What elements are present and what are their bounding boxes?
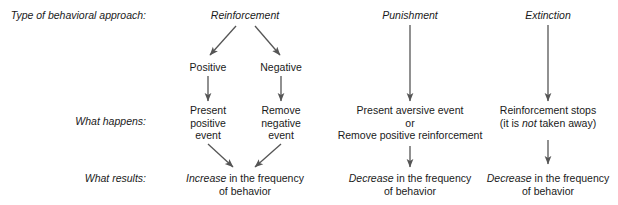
results-punishment-rest: in the frequency: [394, 172, 472, 184]
results-extinction-line2: of behavior: [487, 185, 610, 198]
happens-negative-line3: event: [261, 129, 301, 142]
happens-negative-line2: negative: [261, 117, 301, 130]
row-label-approach: Type of behavioral approach:: [11, 9, 146, 22]
column-header-reinforcement: Reinforcement: [211, 9, 279, 22]
results-punishment-line1: Decrease in the frequency: [349, 172, 472, 185]
results-extinction-emphasis: Decrease: [487, 172, 532, 184]
results-reinforcement-rest: in the frequency: [226, 172, 304, 184]
results-extinction-line1: Decrease in the frequency: [487, 172, 610, 185]
happens-extinction-line2-post: taken away): [537, 117, 597, 129]
happens-positive-line3: event: [190, 129, 226, 142]
happens-punishment-line3: Remove positive reinforcement: [338, 129, 483, 142]
results-punishment-line2: of behavior: [349, 185, 472, 198]
arrow-reinforcement-to-positive: [210, 26, 236, 55]
results-extinction-rest: in the frequency: [532, 172, 610, 184]
results-reinforcement-line1: Increase in the frequency: [186, 172, 304, 185]
happens-extinction-line1: Reinforcement stops: [500, 104, 596, 117]
happens-punishment-line1: Present aversive event: [338, 104, 483, 117]
happens-extinction-line2: (it is not taken away): [500, 117, 596, 130]
happens-extinction-line2-pre: (it is: [500, 117, 522, 129]
behavioral-approach-diagram: Type of behavioral approach: What happen…: [0, 0, 618, 205]
results-reinforcement-line2: of behavior: [186, 185, 304, 198]
happens-positive-line1: Present: [190, 104, 226, 117]
row-label-what-results: What results:: [85, 172, 146, 185]
branch-label-positive: Positive: [190, 61, 227, 74]
happens-punishment-line2: or: [338, 117, 483, 130]
row-label-what-happens: What happens:: [75, 115, 146, 128]
happens-positive-line2: positive: [190, 117, 226, 130]
column-header-punishment: Punishment: [382, 9, 437, 22]
arrow-negative-happens-to-results: [255, 144, 281, 167]
happens-negative-line1: Remove: [261, 104, 301, 117]
column-header-extinction: Extinction: [525, 9, 571, 22]
happens-extinction-line2-emphasis: not: [522, 117, 537, 129]
results-punishment-emphasis: Decrease: [349, 172, 394, 184]
branch-label-negative: Negative: [260, 61, 301, 74]
arrow-positive-happens-to-results: [208, 144, 233, 167]
results-reinforcement-emphasis: Increase: [186, 172, 226, 184]
arrow-reinforcement-to-negative: [255, 26, 280, 55]
